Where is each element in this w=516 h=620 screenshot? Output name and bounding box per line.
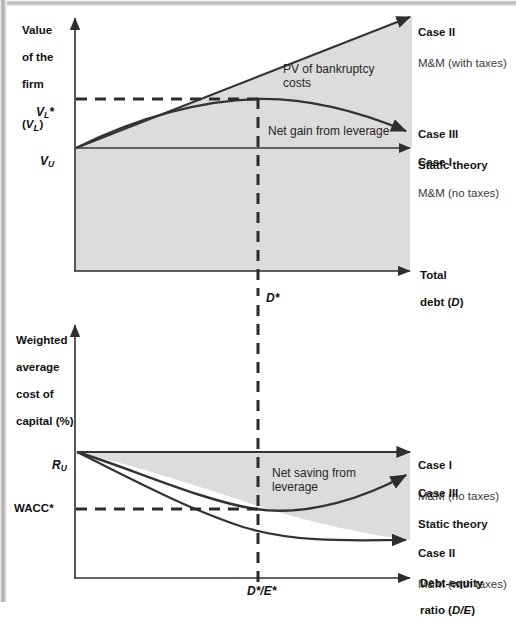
symbol-d: D [266, 291, 275, 305]
top-chart-y-axis-title-l2: of the [22, 51, 53, 65]
top-chart-annotation-pv-bankruptcy: PV of bankruptcy costs [283, 62, 413, 90]
bottom-chart-group [74, 305, 410, 588]
bottom-chart-x-axis-title-l2: ratio (D/E) [420, 604, 483, 618]
top-chart-x-axis-title-l2: debt (D) [420, 296, 463, 310]
top-chart-vu-tick-label: VU [40, 140, 54, 169]
debt-word: debt ( [420, 296, 451, 308]
bottom-chart-x-axis-title-l1: Debt-equity [420, 577, 483, 591]
symbol-v: V [26, 118, 34, 130]
top-chart-legend-case-ii: Case II M&M (with taxes) [418, 8, 507, 88]
paren-close: ) [471, 604, 475, 616]
legend-sub: M&M (with taxes) [418, 57, 507, 70]
bottom-chart-y-axis-title-l1: Weighted [16, 334, 74, 348]
bottom-chart-dstar-estar-tick-label: D*/E* [247, 584, 276, 598]
symbol-v: V [36, 105, 44, 119]
legend-name: Case III [418, 487, 488, 500]
bottom-chart-wacc-star-tick-label: WACC* [14, 502, 54, 514]
top-chart-vl-star-tick-label: VL* [36, 91, 54, 120]
ratio-word: ratio ( [420, 604, 452, 616]
legend-sub: M&M (no taxes) [418, 187, 499, 200]
legend-name: Case II [418, 547, 507, 560]
bottom-chart-y-axis-title-l4: capital (%) [16, 415, 74, 429]
symbol-de: D/E [452, 604, 471, 616]
top-chart-y-axis-title-l1: Value [22, 24, 53, 38]
subscript-u: U [48, 159, 54, 169]
top-chart-annotation-net-gain: Net gain from leverage [268, 124, 418, 138]
top-chart-x-axis-title-l1: Total [420, 269, 463, 283]
top-chart-x-axis-title: Total debt (D) [420, 255, 463, 323]
bottom-chart-y-axis-title: Weighted average cost of capital (%) [16, 320, 74, 442]
symbol-d: D [451, 296, 459, 308]
bottom-chart-annotation-net-saving: Net saving from leverage [272, 466, 402, 494]
top-chart-dstar-tick-label: D* [266, 277, 279, 305]
top-chart-y-axis-title-l3: firm [22, 78, 53, 92]
star-mark: * [275, 291, 280, 305]
bottom-chart-y-axis-title-l2: average [16, 361, 74, 375]
subscript-u: U [61, 463, 67, 473]
bottom-chart-y-axis-title-l3: cost of [16, 388, 74, 402]
symbol-v: V [40, 154, 48, 168]
star-mark: * [49, 105, 54, 119]
paren-close: ) [460, 296, 464, 308]
bottom-chart-ru-tick-label: RU [52, 444, 67, 473]
top-chart-legend-case-i: Case I M&M (no taxes) [418, 138, 499, 218]
legend-name: Case II [418, 26, 507, 39]
top-chart-group [74, 15, 412, 296]
symbol-r: R [52, 458, 61, 472]
legend-name: Case I [418, 156, 499, 169]
top-chart-shaded-area [75, 148, 410, 271]
top-chart-y-axis-title: Value of the firm (VL) [22, 10, 53, 148]
bottom-chart-x-axis-title: Debt-equity ratio (D/E) [420, 563, 483, 620]
